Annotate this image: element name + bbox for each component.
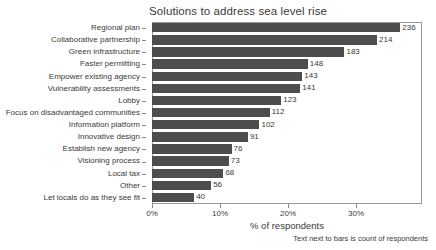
y-axis-tick-label: Collaborative partnership [51,34,140,45]
bar [152,169,223,178]
bar-row: 236 [152,22,422,33]
y-axis-tick-mark [142,186,146,187]
y-axis-tick-mark [142,149,146,150]
bar [152,156,229,165]
x-axis-tick-mark [288,204,289,208]
chart-root: Solutions to address sea level rise Regi… [0,0,436,250]
bar-value-label: 123 [283,94,296,105]
y-axis-labels: Regional planCollaborative partnershipGr… [0,22,146,204]
bar [152,96,281,105]
bar-value-label: 91 [250,131,259,142]
bar [152,47,344,56]
bar [152,84,300,93]
bar-value-label: 76 [234,143,243,154]
bar [152,108,270,117]
bar-value-label: 143 [304,70,317,81]
y-axis-tick-label: Establish new agency [63,143,140,154]
y-axis-tick-label: Local tax [108,168,140,179]
y-axis-tick-label: Green infrastructure [69,46,140,57]
y-axis-tick-label: Other [120,180,140,191]
bar-row: 40 [152,192,422,203]
y-axis-tick-label: Empower existing agency [49,71,140,82]
bar-value-label: 236 [402,22,415,33]
y-axis-tick-mark [142,52,146,53]
y-axis-tick-mark [142,40,146,41]
bar-value-label: 141 [302,82,315,93]
y-axis-tick-mark [142,77,146,78]
bar-row: 76 [152,143,422,154]
x-axis-tick-mark [220,204,221,208]
bar-value-label: 183 [346,46,359,57]
y-axis-tick-mark [142,137,146,138]
bar-row: 148 [152,58,422,69]
bar [152,132,248,141]
chart-footnote: Text next to bars is count of respondent… [293,234,428,243]
bar-row: 73 [152,155,422,166]
bar-row: 214 [152,34,422,45]
bar-row: 112 [152,107,422,118]
x-axis-title: % of respondents [152,220,422,231]
y-axis-tick-label: Vulnerability assessments [48,83,140,94]
x-axis-tick-label: 20% [280,209,296,218]
y-axis-tick-label: Focus on disadvantaged communities [6,107,140,118]
bar-row: 102 [152,119,422,130]
bar [152,193,194,202]
bar-row: 141 [152,83,422,94]
y-axis-tick-mark [142,28,146,29]
bar [152,35,377,44]
bar-value-label: 112 [272,106,285,117]
y-axis-tick-mark [142,162,146,163]
y-axis-tick-mark [142,174,146,175]
x-axis-tick-mark [152,204,153,208]
bars-layer: 236214183148143141123112102917673685640 [152,22,422,204]
bar-row: 123 [152,95,422,106]
x-axis-tick-label: 10% [212,209,228,218]
y-axis-tick-mark [142,113,146,114]
y-axis-tick-label: Regional plan [91,22,140,33]
y-axis-tick-label: Visioning process [77,155,140,166]
bar-row: 56 [152,180,422,191]
y-axis-tick-mark [142,64,146,65]
chart-title: Solutions to address sea level rise [0,5,436,17]
bar-value-label: 73 [231,155,240,166]
y-axis-tick-label: Innovative design [78,131,140,142]
bar-row: 91 [152,131,422,142]
bar-row: 68 [152,168,422,179]
bar [152,181,211,190]
bar [152,59,308,68]
bar-value-label: 102 [261,119,274,130]
x-axis-tick-label: 0% [146,209,158,218]
bar-value-label: 40 [196,191,205,202]
y-axis-tick-mark [142,101,146,102]
bar-value-label: 214 [379,34,392,45]
y-axis-tick-label: Lobby [118,95,140,106]
bar-value-label: 148 [310,58,323,69]
bar [152,144,232,153]
y-axis-tick-mark [142,125,146,126]
bar-row: 183 [152,46,422,57]
bar [152,120,259,129]
bar [152,72,302,81]
y-axis-tick-label: Faster permitting [80,58,140,69]
y-axis-tick-label: Let locals do as they see fit [44,192,141,203]
x-axis-tick-mark [356,204,357,208]
y-axis-tick-label: Information platform [69,119,140,130]
bar-value-label: 56 [213,179,222,190]
bar-row: 143 [152,71,422,82]
bar-value-label: 68 [225,167,234,178]
y-axis-tick-mark [142,198,146,199]
x-axis-tick-label: 30% [348,209,364,218]
bar [152,23,400,32]
y-axis-tick-mark [142,89,146,90]
